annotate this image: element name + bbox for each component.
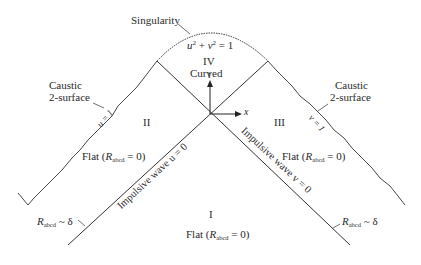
t-axis-arrow-icon <box>207 80 213 87</box>
singularity-equation: u2 + v2 = 1 <box>187 39 233 51</box>
caustic-right-label-1: Caustic <box>335 79 368 91</box>
caustic-right-label-2: 2-surface <box>330 91 371 103</box>
singularity-label: Singularity <box>131 14 180 26</box>
region-iv-label: IV <box>203 55 215 67</box>
r-delta-right-leader <box>333 224 340 228</box>
caustic-left-label-2: 2-surface <box>49 91 90 103</box>
caustic-left-leader <box>93 103 104 108</box>
region-ii-flat-label: Flat (Rabcd = 0) <box>82 150 145 166</box>
region-iv-description: Curved <box>190 67 222 79</box>
region-i-label: I <box>209 208 213 220</box>
region-i-flat-label: Flat (Rabcd = 0) <box>186 228 249 244</box>
region-ii-label: II <box>143 116 150 128</box>
region-iii-flat-label: Flat (Rabcd = 0) <box>282 150 345 166</box>
x-axis-arrow-icon <box>235 111 242 117</box>
caustic-right-leader <box>318 104 328 111</box>
caustic-left-label-1: Caustic <box>49 79 82 91</box>
t-axis-label: t <box>208 69 211 81</box>
r-delta-right-label: Rabcd ~ δ <box>342 215 378 231</box>
region-iii-label: III <box>274 116 285 128</box>
r-delta-left-label: Rabcd ~ δ <box>37 215 73 231</box>
r-delta-left-leader <box>78 220 85 226</box>
x-axis-label: x <box>244 106 248 118</box>
